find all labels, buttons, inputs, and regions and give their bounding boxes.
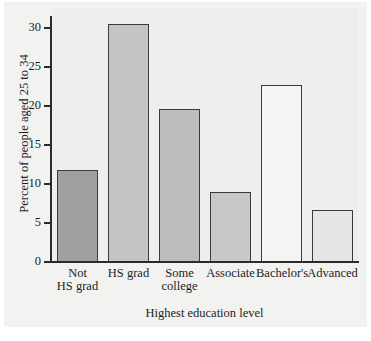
x-tick-label-line: Bachelor's [256, 266, 308, 280]
y-axis-line [50, 16, 52, 263]
bar-chart-figure: 051015202530 Percent of people aged 25 t… [0, 0, 371, 341]
x-tick-label-line: HS grad [108, 266, 149, 280]
x-tick-label-hs-grad: HS grad [103, 267, 154, 280]
bar-bachelor-s[interactable] [261, 85, 302, 262]
x-tick-label-line: Advanced [307, 266, 358, 280]
x-tick-label-some-college: Somecollege [154, 267, 205, 293]
bar-advanced[interactable] [312, 210, 353, 262]
y-tick-label: 0 [0, 255, 41, 267]
bar-associate[interactable] [210, 192, 251, 262]
x-tick-label-line: college [161, 279, 197, 293]
x-tick-label-line: HS grad [57, 279, 98, 293]
x-tick-label-line: Not [68, 266, 87, 280]
bar-hs-grad[interactable] [108, 24, 149, 262]
x-axis-title: Highest education level [51, 306, 358, 321]
x-axis-line [44, 261, 359, 263]
bar-some-college[interactable] [159, 109, 200, 262]
x-tick-label-line: Some [165, 266, 193, 280]
y-axis-title: Percent of people aged 25 to 34 [17, 24, 32, 244]
y-tick-label-text: 0 [1, 255, 41, 268]
x-tick-label-bachelor-s: Bachelor's [256, 267, 307, 280]
bar-not-hs-grad[interactable] [57, 170, 98, 262]
x-tick-label-associate: Associate [205, 267, 256, 280]
x-tick-label-line: Associate [206, 266, 255, 280]
x-tick-label-not-hs-grad: NotHS grad [52, 267, 103, 293]
x-tick-label-advanced: Advanced [307, 267, 358, 280]
